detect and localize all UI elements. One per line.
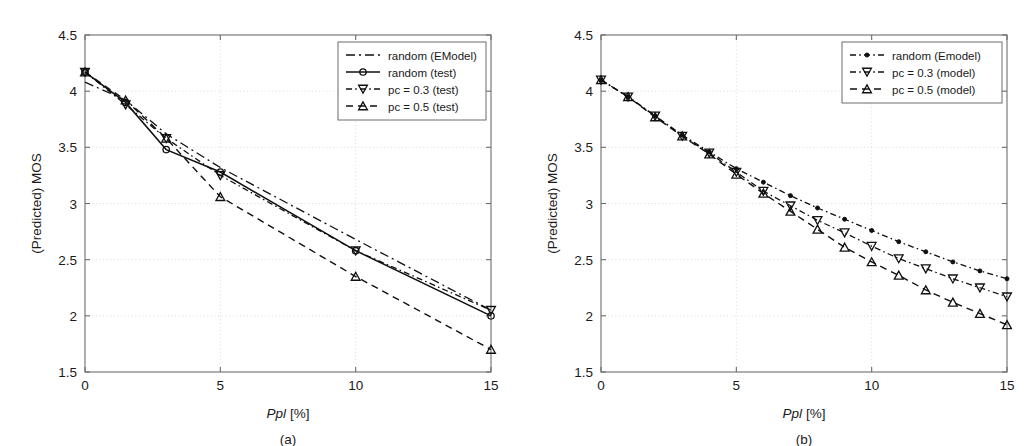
legend-label: pc = 0.3 (test) (388, 84, 459, 96)
legend-label: random (test) (388, 67, 457, 79)
y-tick-label: 4 (585, 84, 593, 99)
y-tick-label: 4.5 (574, 28, 593, 43)
chart-svg-b: 1.522.533.544.5051015random (Emodel)pc =… (516, 0, 1032, 446)
y-tick-label: 2.5 (574, 253, 593, 268)
chart-svg-a: 1.522.533.544.5051015random (EModel)rand… (0, 0, 516, 446)
marker-dot (870, 228, 874, 232)
y-tick-label: 1.5 (58, 365, 77, 380)
chart-panel-b: 1.522.533.544.5051015random (Emodel)pc =… (516, 0, 1032, 446)
series-group (597, 76, 1012, 329)
x-tick-label: 5 (733, 378, 741, 393)
marker-triangle-down (894, 255, 903, 263)
y-tick-label: 4 (69, 84, 77, 99)
x-tick-label: 0 (597, 378, 605, 393)
x-tick-label: 15 (483, 378, 498, 393)
legend-label: pc = 0.5 (model) (892, 84, 976, 96)
y-tick-label: 2.5 (58, 253, 77, 268)
x-axis-title-italic: Ppl (267, 406, 288, 421)
y-tick-label: 4.5 (58, 28, 77, 43)
legend: random (EModel)random (test)pc = 0.3 (te… (338, 42, 486, 120)
marker-dot (788, 194, 792, 198)
x-tick-label: 10 (348, 378, 363, 393)
x-axis-title-units: [%] (802, 406, 825, 421)
marker-triangle-up (948, 298, 957, 306)
marker-triangle-down (840, 229, 849, 237)
marker-dot (1005, 277, 1009, 281)
marker-dot (816, 206, 820, 210)
marker-triangle-up (813, 225, 822, 233)
marker-dot (843, 217, 847, 221)
y-tick-label: 3.5 (58, 140, 77, 155)
marker-triangle-up (894, 271, 903, 279)
x-tick-label: 5 (217, 378, 225, 393)
marker-triangle-down (813, 217, 822, 225)
x-tick-label: 0 (81, 378, 89, 393)
marker-triangle-down (921, 265, 930, 273)
x-axis-title: Ppl [%] (783, 406, 826, 421)
y-tick-label: 2 (585, 309, 593, 324)
marker-dot (951, 260, 955, 264)
y-axis-title: (Predicted) MOS (545, 153, 560, 254)
series-2 (597, 76, 1012, 301)
marker-dot (865, 53, 869, 57)
marker-dot (897, 240, 901, 244)
y-tick-label: 3 (585, 197, 593, 212)
panel-caption: (b) (796, 432, 813, 446)
x-tick-label: 15 (999, 378, 1014, 393)
marker-dot (978, 269, 982, 273)
series-line (601, 80, 1007, 325)
legend-label: random (Emodel) (892, 50, 981, 62)
marker-dot (761, 180, 765, 184)
x-axis-title: Ppl [%] (267, 406, 310, 421)
panel-caption: (a) (280, 432, 297, 446)
legend-label: pc = 0.5 (test) (388, 101, 459, 113)
y-tick-label: 2 (69, 309, 77, 324)
series-line (601, 80, 1007, 297)
series-1 (599, 78, 1009, 281)
x-axis-title-units: [%] (286, 406, 309, 421)
legend-label: pc = 0.3 (model) (892, 67, 976, 79)
chart-panel-a: 1.522.533.544.5051015random (EModel)rand… (0, 0, 516, 446)
legend-label: random (EModel) (388, 50, 477, 62)
legend: random (Emodel)pc = 0.3 (model)pc = 0.5 … (842, 42, 1002, 103)
series-line (601, 80, 1007, 279)
marker-dot (924, 250, 928, 254)
x-axis-title-italic: Ppl (783, 406, 804, 421)
y-tick-label: 3.5 (574, 140, 593, 155)
marker-triangle-up (840, 243, 849, 251)
x-tick-label: 10 (864, 378, 879, 393)
y-axis-title: (Predicted) MOS (29, 153, 44, 254)
y-tick-label: 1.5 (574, 365, 593, 380)
figure-container: 1.522.533.544.5051015random (EModel)rand… (0, 0, 1032, 446)
y-tick-label: 3 (69, 197, 77, 212)
